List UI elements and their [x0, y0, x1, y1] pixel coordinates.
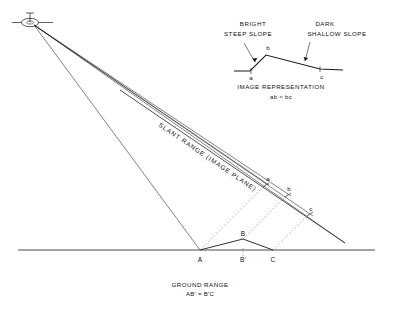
ground-point-label-A: A: [198, 256, 203, 263]
inset-point-tick-group: [251, 66, 320, 74]
inset-point-label-a: a: [249, 74, 253, 81]
terrain-profile: [200, 239, 273, 250]
dark-shallow-slope-label-line2: SHALLOW SLOPE: [307, 30, 366, 37]
projection-line-A-to-a: [200, 184, 266, 250]
ground-range-caption-line2: AB' = B'C: [186, 291, 215, 297]
radar-ray-to-b: [34, 25, 291, 196]
slant-point-label-b: b: [287, 185, 291, 192]
projection-line-group: [200, 184, 310, 250]
projection-line-C-to-c: [273, 213, 310, 250]
ground-point-label-B-prime: B': [240, 256, 246, 263]
ground-point-label-C: C: [271, 256, 276, 263]
inset-point-label-b: b: [266, 44, 270, 51]
bright-steep-slope-label-line1: BRIGHT: [240, 20, 266, 27]
slant-point-label-a: a: [266, 175, 270, 182]
figure-canvas: SLANT RANGE (IMAGE PLANE) a b c A B B' C…: [0, 0, 395, 313]
ground-point-label-B: B: [241, 230, 246, 237]
inset-point-label-c: c: [320, 73, 323, 80]
dark-shallow-slope-arrow-icon: [304, 42, 310, 61]
radar-ray-to-c: [34, 25, 313, 216]
radar-ray-far: [34, 25, 345, 243]
dark-shallow-slope-label-line1: DARK: [315, 20, 335, 27]
aircraft-icon: [12, 13, 53, 27]
slant-range-line: [120, 90, 345, 243]
bright-steep-slope-label-line2: STEEP SLOPE: [224, 30, 272, 37]
inset-caption-line1: IMAGE REPRESENTATION: [237, 83, 324, 90]
diagram-svg: SLANT RANGE (IMAGE PLANE) a b c A B B' C…: [0, 0, 395, 313]
slant-range-label: SLANT RANGE (IMAGE PLANE): [157, 121, 258, 193]
inset-caption-line2: ab < bc: [270, 94, 292, 100]
bright-steep-slope-arrow-icon: [244, 43, 257, 62]
ground-range-caption-line1: GROUND RANGE: [171, 281, 228, 288]
slant-point-label-c: c: [309, 205, 312, 212]
inset-profile-line: [234, 55, 343, 71]
projection-line-B-to-b: [243, 194, 288, 239]
